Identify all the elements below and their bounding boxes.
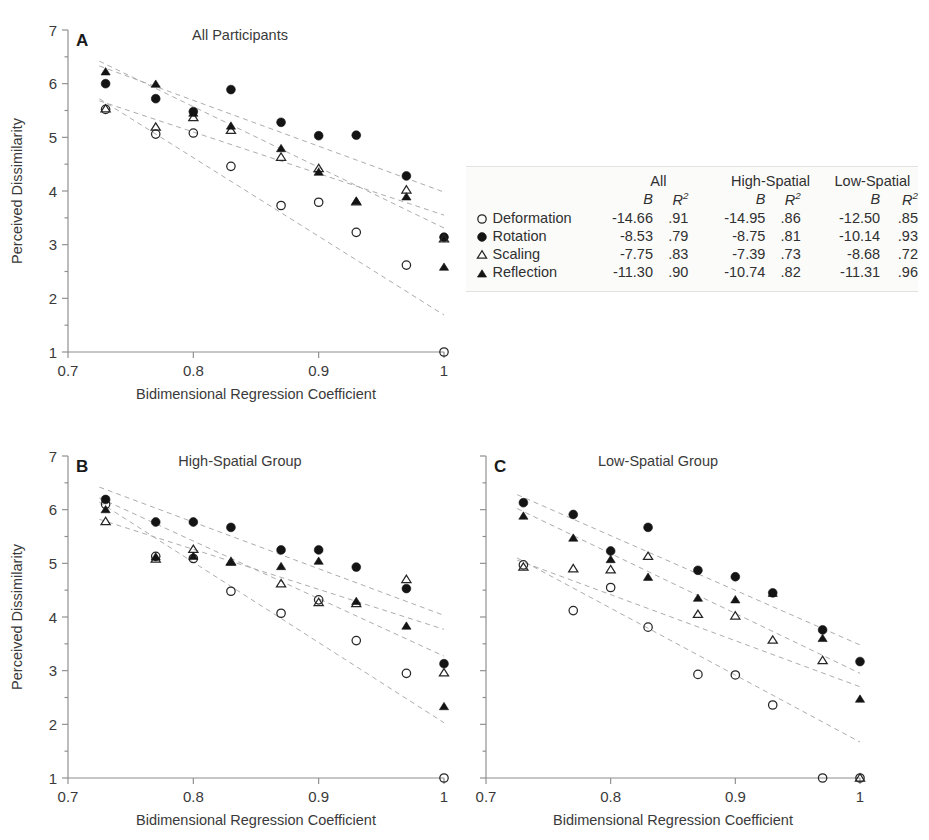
filled-triangle-marker [101,68,110,75]
r2-exponent: 2 [683,190,688,201]
regression-line-reflection [99,498,444,656]
open-triangle-marker [276,579,285,586]
stat-b-all: -11.30 [602,263,659,281]
legend-symbol-cell [474,209,493,227]
legend-row: Deformation-14.66.91-14.95.86-12.50.85 [474,209,918,227]
panel-b-chart: 12345670.70.80.91BHigh-Spatial GroupBidi… [0,408,470,840]
open-triangle-marker [768,636,777,643]
r2-exponent: 2 [795,190,800,201]
x-axis-title: Bidimensional Regression Coefficient [553,812,793,828]
open-circle-marker [606,583,614,591]
open-triangle-marker [101,105,110,112]
x-tick-label: 1 [856,788,864,805]
legend-symbol-cell [474,245,493,263]
filled-circle-marker [856,657,865,666]
filled-circle-marker [189,518,198,527]
legend-row: Scaling-7.75.83-7.39.73-8.68.72 [474,245,918,263]
panel-letter-c: C [494,457,506,476]
filled-circle-marker [644,523,653,532]
filled-triangle-marker [402,193,411,200]
y-tick-label: 4 [49,609,57,626]
subheader-r2-all: R2 [659,189,714,209]
y-tick-label: 2 [49,716,57,733]
filled-circle-marker [101,79,110,88]
group-header-high-spatial: High-Spatial [714,172,826,189]
legend-stats-table: All High-Spatial Low-Spatial B R2 B R2 B [466,166,918,292]
filled-triangle-marker [643,573,652,580]
regression-line-scaling [99,519,444,629]
x-tick-label: 1 [440,362,448,379]
y-tick-label: 4 [49,183,57,200]
filled-circle-marker [402,172,411,181]
subheader-r2-high: R2 [771,189,826,209]
filled-circle-marker [277,118,286,127]
open-triangle-marker [276,153,285,160]
subheader-b-low: B [827,189,886,209]
filled-triangle-marker [151,80,160,87]
legend-series-label: Scaling [493,245,603,263]
open-circle-marker [478,215,486,223]
filled-triangle-marker [226,122,235,129]
filled-triangle-marker [478,269,487,276]
y-axis-title: Perceived Dissimilarity [9,117,25,264]
filled-circle-marker [314,546,323,555]
open-triangle-marker [569,564,578,571]
legend-row: Reflection-11.30.90-10.74.82-11.31.96 [474,263,918,281]
open-circle-marker [352,636,360,644]
subheader-b-high: B [714,189,771,209]
x-tick-label: 0.7 [58,788,79,805]
filled-circle-marker [569,510,578,519]
stat-r2-all: .79 [659,227,714,245]
r2-base: R [902,192,912,208]
spacer-cell2 [493,172,603,189]
filled-triangle-marker [352,197,361,204]
stat-r2-all: .90 [659,263,714,281]
legend-bottom-rule [466,291,918,292]
open-triangle-marker [402,186,411,193]
stat-r2-high: .81 [771,227,826,245]
stat-r2-low: .93 [886,227,918,245]
subheader-b-all: B [602,189,659,209]
regression-line-scaling [517,560,860,687]
y-tick-label: 7 [49,448,57,465]
panel-letter-a: A [76,31,88,50]
stat-r2-low: .72 [886,245,918,263]
panel-c-chart: 0.70.80.91CLow-Spatial GroupBidimensiona… [462,408,929,840]
y-tick-label: 5 [49,129,57,146]
legend-symbol-cell [474,263,493,281]
group-header-all: All [602,172,714,189]
stat-r2-high: .73 [771,245,826,263]
spacer-cell3 [474,189,493,209]
filled-circle-marker [818,625,827,634]
panel-title-a: All Participants [192,27,288,43]
y-axis-title: Perceived Dissimilarity [9,543,25,690]
filled-circle-marker [352,563,361,572]
stat-b-high: -14.95 [714,209,771,227]
x-tick-label: 0.9 [308,362,329,379]
spacer-cell [474,172,493,189]
y-tick-label: 1 [49,344,57,361]
open-triangle-marker [189,545,198,552]
spacer-cell4 [493,189,603,209]
group-header-low-spatial: Low-Spatial [827,172,918,189]
subheader-r2-low: R2 [886,189,918,209]
legend-top-rule [466,166,918,167]
filled-triangle-marker [352,597,361,604]
x-tick-label: 0.7 [58,362,79,379]
filled-circle-marker [277,546,286,555]
stats-table-sub-header-row: B R2 B R2 B R2 [474,189,918,209]
open-triangle-marker [402,575,411,582]
regression-line-rotation [517,495,860,645]
filled-circle-marker [731,572,740,581]
open-circle-marker [314,198,322,206]
filled-triangle-marker [439,263,448,270]
series-deformation [519,561,864,782]
filled-triangle-marker [855,695,864,702]
filled-circle-marker [519,498,528,507]
x-axis-title: Bidimensional Regression Coefficient [136,812,376,828]
x-tick-label: 0.9 [308,788,329,805]
open-triangle-marker [101,517,110,524]
x-tick-label: 0.8 [600,788,621,805]
open-circle-marker [277,609,285,617]
regression-line-scaling [99,101,444,215]
